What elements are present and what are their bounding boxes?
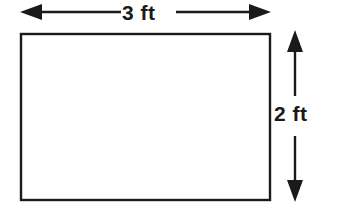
width-dimension-label: 3 ft bbox=[122, 2, 156, 23]
height-dimension-label: 2 ft bbox=[274, 103, 308, 124]
diagram-canvas: 3 ft 2 ft bbox=[0, 0, 341, 216]
height-bottom-arrowhead-icon bbox=[287, 180, 303, 202]
width-right-arrowhead-icon bbox=[249, 4, 271, 20]
width-left-arrowhead-icon bbox=[20, 4, 42, 20]
height-top-arrowhead-icon bbox=[287, 30, 303, 52]
rectangle-shape bbox=[21, 34, 270, 200]
